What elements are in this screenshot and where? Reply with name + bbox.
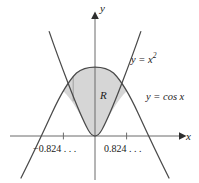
y-axis-arrow [91,12,99,20]
parabola-exponent: 2 [153,51,157,60]
parabola-curve-label: y = x2 [131,52,156,65]
y-axis-label: y [100,3,105,14]
x-axis-label: x [186,131,191,142]
x-tick-label-positive: 0.824 . . . [104,144,142,154]
parabola-curve-label-text: y = x [131,54,153,65]
region-label: R [100,90,107,101]
cosine-curve-label: y = cos x [146,92,184,103]
x-tick-label-negative: −0.824 . . . [33,144,76,154]
